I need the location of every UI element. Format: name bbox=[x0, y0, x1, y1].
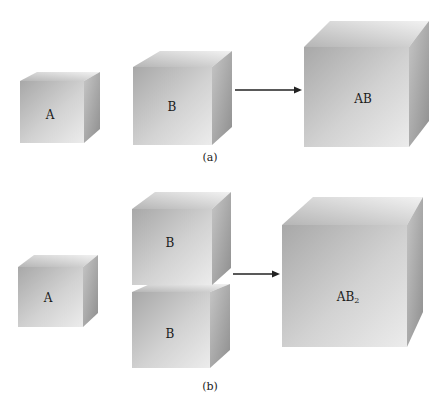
label-b-upper: B bbox=[166, 236, 175, 250]
label-ab2-base: AB bbox=[337, 290, 354, 304]
cubes-svg bbox=[0, 0, 444, 406]
label-b-lower: B bbox=[166, 327, 175, 341]
label-b-top: B bbox=[168, 100, 177, 114]
label-ab2-subscript: 2 bbox=[354, 296, 359, 305]
caption-b: (b) bbox=[202, 380, 218, 393]
label-ab2: AB2 bbox=[337, 290, 360, 305]
cube-b-upper bbox=[132, 192, 231, 285]
cube-b-top-panel bbox=[133, 51, 232, 145]
cube-a-bottom-panel bbox=[18, 255, 98, 327]
cube-a-top-panel bbox=[20, 72, 100, 143]
cube-ab-product bbox=[304, 21, 429, 147]
label-ab: AB bbox=[354, 92, 371, 106]
reaction-arrow-a bbox=[235, 87, 302, 94]
caption-a: (a) bbox=[202, 151, 217, 164]
label-a-bottom: A bbox=[44, 291, 53, 305]
cube-ab2-product bbox=[282, 197, 423, 347]
reaction-arrow-b bbox=[233, 271, 280, 278]
diagram-canvas: A B AB (a) A B B AB2 (b) bbox=[0, 0, 444, 406]
label-a-top: A bbox=[46, 108, 55, 122]
cube-b-lower bbox=[132, 284, 230, 368]
